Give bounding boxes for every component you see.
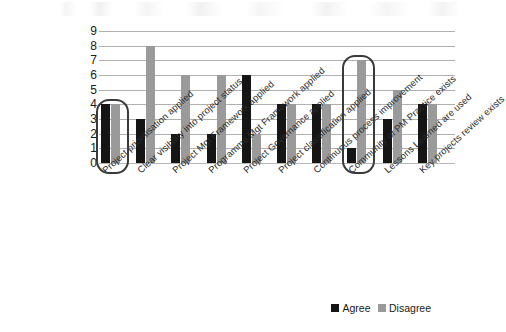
bar-agree bbox=[207, 134, 216, 163]
bar-agree bbox=[277, 104, 286, 163]
y-tick-6: 6 bbox=[90, 69, 97, 81]
bar-disagree bbox=[428, 104, 437, 163]
legend-label-agree: Agree bbox=[343, 303, 371, 314]
legend-item-disagree: Disagree bbox=[378, 303, 432, 314]
bar-group bbox=[383, 31, 402, 163]
bar-disagree bbox=[357, 60, 366, 163]
bar-disagree bbox=[393, 90, 402, 163]
y-tick-9: 9 bbox=[90, 25, 97, 37]
bar-group bbox=[207, 31, 226, 163]
bar-disagree bbox=[217, 75, 226, 163]
bar-agree bbox=[418, 104, 427, 163]
bar-group bbox=[312, 31, 331, 163]
bar-agree bbox=[136, 119, 145, 163]
bar-group bbox=[171, 31, 190, 163]
bar-group bbox=[242, 31, 261, 163]
y-tick-4: 4 bbox=[90, 98, 97, 110]
bar-group bbox=[418, 31, 437, 163]
legend-label-disagree: Disagree bbox=[389, 303, 431, 314]
bar-group bbox=[136, 31, 155, 163]
bar-disagree bbox=[322, 104, 331, 163]
legend-swatch-agree bbox=[331, 304, 339, 312]
bar-agree bbox=[383, 119, 392, 163]
bar-disagree bbox=[181, 75, 190, 163]
bar-disagree bbox=[252, 134, 261, 163]
bar-group bbox=[101, 31, 120, 163]
y-axis-labels: 0123456789 bbox=[83, 31, 97, 163]
y-tick-8: 8 bbox=[90, 40, 97, 52]
chart-legend: Agree Disagree bbox=[331, 303, 431, 314]
y-tick-2: 2 bbox=[90, 128, 97, 140]
bar-group bbox=[347, 31, 366, 163]
bar-agree bbox=[101, 104, 110, 163]
y-tick-5: 5 bbox=[90, 84, 97, 96]
bar-agree bbox=[347, 148, 356, 163]
bar-series-container bbox=[99, 31, 455, 163]
bar-agree bbox=[312, 104, 321, 163]
bar-disagree bbox=[287, 104, 296, 163]
bar-disagree bbox=[146, 46, 155, 163]
legend-item-agree: Agree bbox=[331, 303, 371, 314]
bar-group bbox=[277, 31, 296, 163]
plot-area bbox=[99, 31, 455, 163]
bar-disagree bbox=[111, 104, 120, 163]
scan-artifact bbox=[60, 2, 460, 16]
y-tick-0: 0 bbox=[90, 157, 97, 169]
y-tick-7: 7 bbox=[90, 54, 97, 66]
legend-swatch-disagree bbox=[378, 304, 386, 312]
axis-baseline bbox=[99, 163, 455, 164]
y-tick-3: 3 bbox=[90, 113, 97, 125]
bar-agree bbox=[171, 134, 180, 163]
bar-agree bbox=[242, 75, 251, 163]
y-tick-1: 1 bbox=[90, 142, 97, 154]
